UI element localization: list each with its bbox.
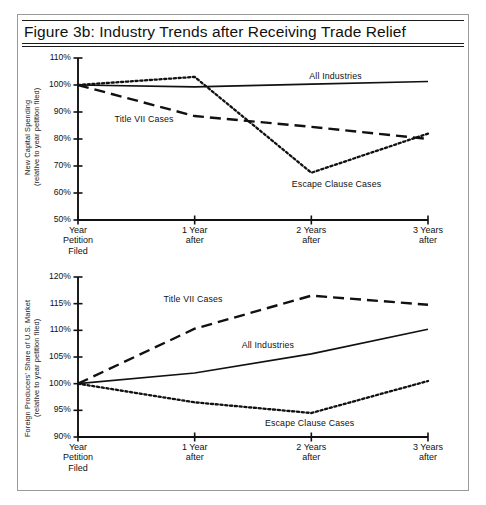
series-line — [78, 85, 428, 139]
series-line — [78, 381, 428, 413]
x-tick-label: Year Petition Filed — [38, 225, 118, 256]
page-title: Figure 3b: Industry Trends after Receivi… — [22, 21, 464, 43]
y-tick-label: 70% — [20, 160, 71, 170]
chart-new-capital-spending — [0, 44, 486, 244]
x-tick-label: 1 Year after — [155, 225, 235, 246]
series-label: Title VII Cases — [164, 294, 223, 304]
x-tick-label: 2 Years after — [271, 442, 351, 463]
y-tick-label: 90% — [20, 106, 71, 116]
y-tick-label: 90% — [20, 431, 71, 441]
series-label: Title VII Cases — [115, 114, 174, 124]
chart-bottom-y-axis-label: Foreign Producers' Share of U.S. Market … — [24, 283, 41, 453]
y-tick-label: 115% — [20, 298, 71, 308]
y-tick-label: 120% — [20, 271, 71, 281]
series-label: Escape Clause Cases — [292, 179, 381, 189]
y-tick-label: 110% — [20, 324, 71, 334]
x-tick-label: 2 Years after — [271, 225, 351, 246]
y-tick-label: 60% — [20, 187, 71, 197]
y-tick-label: 95% — [20, 404, 71, 414]
series-label: Escape Clause Cases — [265, 418, 354, 428]
series-line — [78, 329, 428, 383]
x-tick-label: 3 Years after — [388, 442, 468, 463]
figure-page: Figure 3b: Industry Trends after Receivi… — [0, 0, 486, 505]
figure-title-block: Figure 3b: Industry Trends after Receivi… — [22, 20, 464, 47]
chart-top-plot-area — [0, 44, 486, 244]
series-label: All Industries — [242, 340, 294, 350]
series-line — [78, 77, 428, 173]
x-tick-label: Year Petition Filed — [38, 442, 118, 473]
y-tick-label: 100% — [20, 79, 71, 89]
y-tick-label: 105% — [20, 351, 71, 361]
x-tick-label: 1 Year after — [155, 442, 235, 463]
y-tick-label: 100% — [20, 378, 71, 388]
y-tick-label: 80% — [20, 133, 71, 143]
y-tick-label: 50% — [20, 214, 71, 224]
x-tick-label: 3 Years after — [388, 225, 468, 246]
y-tick-label: 110% — [20, 52, 71, 62]
series-label: All Industries — [309, 71, 361, 81]
